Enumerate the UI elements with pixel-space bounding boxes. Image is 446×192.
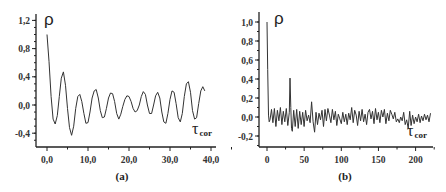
x-tick-label: 150 bbox=[371, 155, 386, 165]
y-tick-label: 0,6 bbox=[241, 56, 253, 66]
y-axis-label-b: ρ bbox=[274, 9, 284, 28]
x-ticks-a: 0,010,020,030,040,0 bbox=[41, 147, 231, 165]
y-tick-label: 0,8 bbox=[241, 37, 253, 47]
x-tick-label: 50 bbox=[299, 155, 309, 165]
x-axis-label-sub-a: cor bbox=[199, 128, 212, 138]
x-axis-label-main-b: τ bbox=[407, 122, 414, 139]
y-tick-label: 0,0 bbox=[18, 101, 30, 111]
y-tick-label: 0,8 bbox=[18, 44, 30, 54]
y-ticks-a: 1,20,80,40,0-0,4 bbox=[15, 16, 36, 140]
y-ticks-b: 1,00,80,60,40,20,0-0,2 bbox=[238, 18, 259, 146]
figure: 1,20,80,40,0-0,4 0,010,020,030,040,0 ρ τ… bbox=[0, 0, 446, 192]
y-tick-label: 0,2 bbox=[241, 94, 253, 104]
x-ticks-b: 050100150200 bbox=[265, 147, 435, 165]
y-tick-label: -0,4 bbox=[15, 129, 30, 139]
x-axis-label-sub-b: cor bbox=[414, 130, 427, 140]
chart-panel-b: 1,00,80,60,40,20,0-0,2 050100150200 ρ τc… bbox=[238, 9, 434, 183]
x-tick-label: 40,0 bbox=[203, 155, 220, 165]
x-tick-label: 10,0 bbox=[80, 155, 97, 165]
y-tick-label: 0,4 bbox=[241, 75, 253, 85]
autocorrelation-curve-b bbox=[267, 22, 431, 132]
panel-label-b: (b) bbox=[338, 170, 352, 183]
chart-panel-a: 1,20,80,40,0-0,4 0,010,020,030,040,0 ρ τ… bbox=[15, 10, 232, 183]
x-tick-label: 100 bbox=[334, 155, 349, 165]
y-tick-label: -0,2 bbox=[238, 132, 253, 142]
y-axis-label-a: ρ bbox=[44, 10, 54, 29]
panel-label-a: (a) bbox=[116, 170, 129, 183]
x-axis-label-a: τcor bbox=[192, 120, 212, 138]
x-tick-label: 30,0 bbox=[162, 155, 179, 165]
x-tick-label: 20,0 bbox=[121, 155, 138, 165]
autocorrelation-curve-a bbox=[47, 35, 205, 136]
y-tick-label: 0,4 bbox=[18, 72, 30, 82]
y-tick-label: 1,0 bbox=[241, 18, 253, 28]
x-tick-label: 0 bbox=[265, 155, 270, 165]
x-tick-label: 200 bbox=[408, 155, 423, 165]
x-axis-label-b: τcor bbox=[407, 122, 427, 140]
y-tick-label: 1,2 bbox=[18, 16, 30, 26]
x-axis-label-main-a: τ bbox=[192, 120, 199, 137]
y-tick-label: 0,0 bbox=[241, 113, 253, 123]
x-tick-label: 0,0 bbox=[41, 155, 53, 165]
